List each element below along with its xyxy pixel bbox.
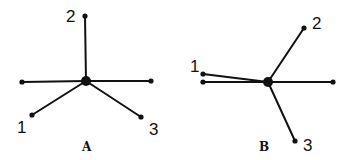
endpoint-node-3 <box>292 138 297 143</box>
edge-3 <box>86 81 141 117</box>
node-label-1: 1 <box>190 57 199 76</box>
endpoint-node-2 <box>82 13 87 18</box>
node-label-1: 1 <box>17 118 26 137</box>
edge-2 <box>85 16 86 81</box>
center-node <box>81 76 91 86</box>
edge-2 <box>268 28 304 82</box>
diagram-canvas: 213A 213B <box>0 0 355 160</box>
edge-left <box>22 81 86 82</box>
edge-1 <box>32 81 86 115</box>
endpoint-node-1 <box>200 71 205 76</box>
center-node <box>263 77 273 87</box>
edge-1 <box>203 74 268 82</box>
endpoint-node-2 <box>301 25 306 30</box>
node-label-2: 2 <box>312 14 321 33</box>
diagram-caption: B <box>259 140 270 154</box>
endpoint-node-right <box>148 78 153 83</box>
endpoint-node-1 <box>29 112 34 117</box>
node-label-3: 3 <box>149 120 158 139</box>
endpoint-node-left <box>200 79 205 84</box>
node-label-3: 3 <box>303 136 312 155</box>
endpoint-node-left <box>19 79 24 84</box>
node-label-2: 2 <box>66 7 75 26</box>
endpoint-node-right <box>330 79 335 84</box>
star-diagram-b: 213B <box>190 14 336 155</box>
star-diagram-a: 213A <box>17 7 158 154</box>
edge-3 <box>268 82 295 141</box>
endpoint-node-3 <box>138 114 143 119</box>
diagram-caption: A <box>81 140 92 154</box>
